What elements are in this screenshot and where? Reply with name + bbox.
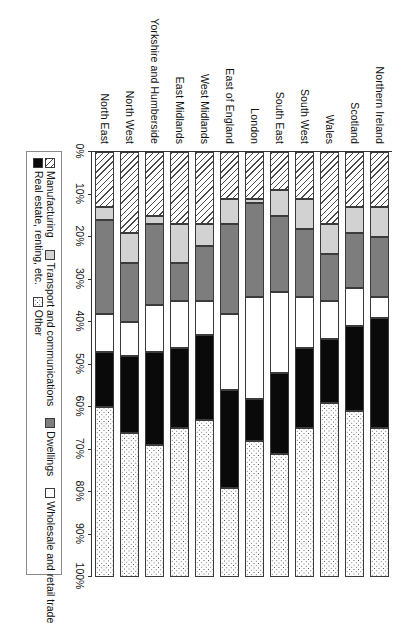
bar-segment: [245, 152, 264, 199]
category-label: North West: [125, 91, 136, 144]
bar-segment: [245, 297, 264, 399]
bar-segment: [145, 224, 164, 305]
legend-label: Transport and communications: [45, 263, 56, 407]
category-label: Wales: [325, 115, 336, 144]
bar-segment: [145, 445, 164, 577]
bar-segment: [145, 216, 164, 225]
bar-row: [95, 152, 114, 577]
bar-segment: [295, 229, 314, 297]
legend-item[interactable]: Transport and communications: [45, 250, 56, 407]
bar-segment: [195, 152, 214, 224]
bar-segment: [145, 152, 164, 216]
legend-item[interactable]: Real estate, renting, etc.: [33, 158, 44, 285]
axis-tick-label: 10%: [74, 183, 86, 204]
value-axis: 0%10%20%30%40%50%60%70%80%90%100%: [66, 151, 92, 576]
bar-row: [245, 152, 264, 577]
axis-tick-label: 80%: [74, 480, 86, 501]
category-label: West Midlands: [200, 74, 211, 144]
bar-segment: [120, 152, 139, 233]
bar-segment: [270, 454, 289, 577]
legend-label: Other: [33, 310, 44, 336]
bar-row: [170, 152, 189, 577]
axis-tick: [88, 151, 92, 152]
axis-tick-label: 50%: [74, 353, 86, 374]
bar-segment: [145, 352, 164, 446]
bar-segment: [220, 488, 239, 577]
legend-label: Dwellings: [45, 431, 56, 476]
bar-segment: [370, 152, 389, 207]
bar-segment: [220, 224, 239, 313]
legend-swatch-icon: [46, 418, 56, 428]
bar-segment: [320, 152, 339, 224]
bar-segment: [295, 428, 314, 577]
bar-segment: [270, 292, 289, 373]
category-label: North East: [100, 93, 111, 144]
bar-segment: [320, 339, 339, 403]
bar-segment: [95, 220, 114, 314]
bar-segment: [120, 233, 139, 263]
axis-tick-label: 70%: [74, 438, 86, 459]
bar-segment: [195, 301, 214, 335]
category-axis: Northern IrelandScotlandWalesSouth WestS…: [92, 0, 392, 150]
category-label: East Midlands: [175, 77, 186, 144]
bar-segment: [120, 263, 139, 323]
bar-segment: [170, 263, 189, 301]
bar-segment: [245, 203, 264, 297]
category-label: South East: [275, 92, 286, 144]
legend-row-2: Real estate, renting, etc.Other: [33, 158, 44, 568]
bar-segment: [295, 348, 314, 429]
axis-tick: [88, 279, 92, 280]
bar-segment: [270, 373, 289, 454]
bar-segment: [295, 199, 314, 229]
category-label: East of England: [225, 68, 236, 144]
legend-swatch-icon: [46, 250, 56, 260]
axis-tick-label: 20%: [74, 225, 86, 246]
bar-segment: [345, 233, 364, 288]
bar-segment: [370, 237, 389, 297]
bar-segment: [245, 399, 264, 442]
bar-row: [370, 152, 389, 577]
axis-tick: [88, 491, 92, 492]
legend-item[interactable]: Other: [33, 297, 44, 336]
bar-row: [295, 152, 314, 577]
bar-segment: [95, 352, 114, 407]
legend-label: Real estate, renting, etc.: [33, 171, 44, 285]
bar-segment: [95, 314, 114, 352]
legend-label: Wholesale and retail trade: [45, 501, 56, 623]
bar-segment: [345, 326, 364, 411]
legend-item[interactable]: Manufacturing: [45, 158, 56, 238]
bar-segment: [120, 356, 139, 433]
bar-segment: [320, 224, 339, 254]
legend-item[interactable]: Dwellings: [45, 418, 56, 476]
bar-segment: [145, 305, 164, 352]
bar-segment: [345, 207, 364, 233]
legend-swatch-icon: [34, 297, 44, 307]
bar-segment: [220, 314, 239, 391]
bar-segment: [270, 152, 289, 190]
bar-segment: [220, 199, 239, 225]
bar-segment: [170, 301, 189, 348]
bar-row: [145, 152, 164, 577]
axis-tick: [88, 236, 92, 237]
axis-tick-label: 90%: [74, 523, 86, 544]
bar-row: [345, 152, 364, 577]
bar-segment: [170, 428, 189, 577]
bar-row: [320, 152, 339, 577]
axis-tick: [88, 364, 92, 365]
bar-segment: [120, 322, 139, 356]
bar-segment: [170, 348, 189, 429]
bar-segment: [195, 420, 214, 577]
bar-segment: [195, 224, 214, 245]
bar-segment: [345, 288, 364, 326]
bar-segment: [370, 207, 389, 237]
chart-legend: ManufacturingTransport and communication…: [26, 151, 62, 575]
bar-segment: [295, 152, 314, 199]
axis-tick-label: 40%: [74, 310, 86, 331]
legend-swatch-icon: [46, 488, 56, 498]
legend-swatch-icon: [34, 158, 44, 168]
legend-item[interactable]: Wholesale and retail trade: [45, 488, 56, 623]
plot-area: [92, 151, 392, 577]
axis-tick: [88, 194, 92, 195]
